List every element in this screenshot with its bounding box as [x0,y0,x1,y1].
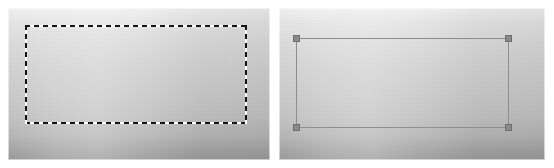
handle-bottom-right-icon[interactable] [505,124,512,131]
marquee-edge-top[interactable] [25,25,247,27]
marching-ants-marquee[interactable] [25,25,247,124]
marquee-edge-right[interactable] [245,25,247,124]
handle-top-right-icon[interactable] [505,35,512,42]
transform-marquee[interactable] [296,38,509,128]
screenshot-root [0,0,554,168]
handle-bottom-left-icon[interactable] [293,124,300,131]
marquee-edge-left[interactable] [25,25,27,124]
handle-top-left-icon[interactable] [293,35,300,42]
dashed-selection-panel [8,8,270,160]
handled-selection-panel [279,8,545,160]
marquee-edge-bottom[interactable] [25,122,247,124]
